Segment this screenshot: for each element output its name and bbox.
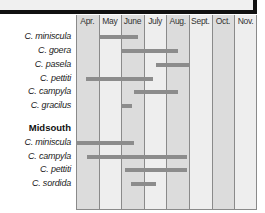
activity-bar xyxy=(76,141,134,145)
month-label: Sept. xyxy=(189,16,212,26)
month-label: July xyxy=(144,16,167,26)
activity-bar xyxy=(99,35,139,39)
month-label: Aug. xyxy=(166,16,189,26)
month-label: Nov. xyxy=(234,16,257,26)
activity-bar xyxy=(86,77,153,81)
month-column-aug xyxy=(166,15,189,210)
species-label: C. campyla xyxy=(28,151,71,161)
month-column-june xyxy=(121,15,144,210)
activity-bar xyxy=(121,49,178,53)
species-label: C. pettiti xyxy=(40,73,71,83)
header-box xyxy=(0,0,257,14)
species-label: C. goera xyxy=(38,45,71,55)
month-column-may xyxy=(99,15,122,210)
species-label: C. sordida xyxy=(32,178,71,188)
month-column-oct xyxy=(212,15,235,210)
month-label: Apr. xyxy=(76,16,99,26)
species-label: C. pasela xyxy=(35,59,71,69)
month-label: Oct. xyxy=(212,16,235,26)
month-label: June xyxy=(121,16,144,26)
species-label: C. miniscula xyxy=(24,31,71,41)
activity-bar xyxy=(125,168,187,172)
group-heading: Midsouth xyxy=(29,122,71,133)
month-column-sept xyxy=(189,15,212,210)
activity-bar xyxy=(156,63,189,67)
species-label: C. gracilus xyxy=(31,100,71,110)
activity-bar xyxy=(87,155,187,159)
activity-bar xyxy=(134,90,178,94)
chart-baseline xyxy=(76,209,257,210)
month-column-apr xyxy=(76,15,99,210)
species-label: C. miniscula xyxy=(24,137,71,147)
species-label: C. pettiti xyxy=(40,164,71,174)
month-column-nov xyxy=(234,15,257,210)
species-label: C. campyla xyxy=(28,86,71,96)
month-column-july xyxy=(144,15,167,210)
month-label: May xyxy=(99,16,122,26)
activity-bar xyxy=(131,182,156,186)
activity-bar xyxy=(121,104,132,108)
gantt-chart: Apr. May June July Aug. Sept. Oct. Nov. xyxy=(76,15,257,210)
